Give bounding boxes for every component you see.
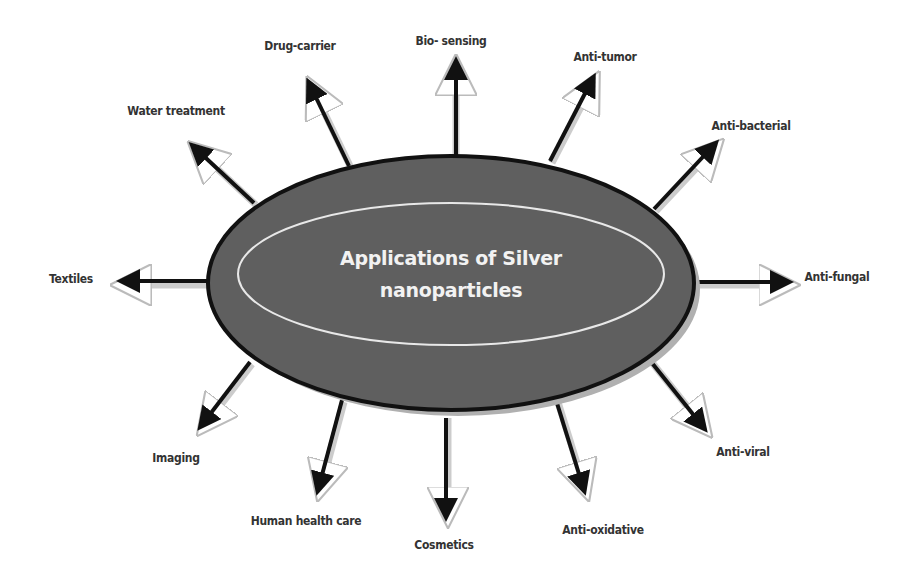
label-imaging: Imaging [152,451,199,465]
arrow-anti-oxidative [556,400,586,492]
arrow-anti-tumor [550,78,595,163]
center-title-line2: nanoparticles [340,274,562,306]
label-anti-oxidative: Anti-oxidative [562,523,644,537]
center-title: Applications of Silver nanoparticles [340,242,562,306]
arrow-textiles [120,281,207,285]
label-anti-tumor: Anti-tumor [573,50,636,64]
label-water-treatment: Water treatment [127,104,225,118]
arrow-water-treatment [193,146,256,205]
label-human-health-care: Human health care [251,514,362,528]
label-bio-sensing: Bio- sensing [416,34,487,48]
label-textiles: Textiles [49,272,93,286]
label-anti-bacterial: Anti-bacterial [711,119,790,133]
center-title-line1: Applications of Silver [340,242,562,274]
arrow-anti-viral [648,358,706,430]
arrow-cosmetics [446,418,448,518]
arrow-anti-bacterial [654,144,717,211]
label-drug-carrier: Drug-carrier [264,39,335,53]
label-anti-viral: Anti-viral [716,445,769,459]
arrow-human-health-care [318,400,344,492]
arrow-imaging [201,362,252,428]
label-anti-fungal: Anti-fungal [805,270,870,284]
label-cosmetics: Cosmetics [414,538,473,552]
arrow-drug-carrier [309,83,351,168]
arrow-anti-fungal [697,282,790,285]
